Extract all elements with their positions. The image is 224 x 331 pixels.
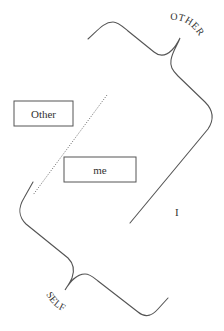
- other-curve-textpath: OTHER: [170, 11, 207, 38]
- me-box: me: [64, 157, 136, 182]
- other-box-label: Other: [31, 108, 56, 120]
- me-box-label: me: [93, 164, 107, 176]
- self-bracket-curve: [20, 182, 168, 316]
- i-label: I: [175, 206, 179, 218]
- self-curve-label: SELF: [44, 290, 68, 314]
- other-bracket-curve: [88, 22, 212, 223]
- other-box: Other: [14, 101, 73, 126]
- other-curve-label: OTHER: [170, 11, 207, 38]
- self-other-diagram: Other me I OTHER SELF: [0, 0, 224, 331]
- self-curve-textpath: SELF: [44, 290, 68, 314]
